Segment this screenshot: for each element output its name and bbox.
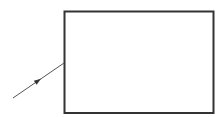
arrowhead-icon — [34, 79, 41, 85]
rectangle-box — [65, 12, 214, 114]
diagram-canvas — [0, 0, 220, 117]
